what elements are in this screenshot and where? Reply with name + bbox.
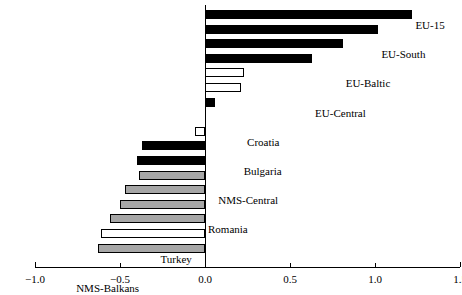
bar-row: Moldova	[0, 244, 462, 253]
bar-eu-central	[205, 54, 312, 63]
bar-row: Albania	[0, 185, 462, 194]
bar-row: Bosnia-Herzegovina	[0, 214, 462, 223]
x-axis-cap-right	[460, 262, 461, 267]
bar-ukraine	[101, 229, 205, 238]
bar-row: Macedonia	[0, 171, 462, 180]
bar-row: Bulgaria	[0, 83, 462, 92]
bar-serbia-montenegro	[120, 200, 205, 209]
bar-croatia	[205, 68, 244, 77]
x-tick-label-1: −0.5	[95, 273, 145, 285]
bar-row: NMS-Balkans	[0, 141, 462, 150]
bar-row: EU-Baltic	[0, 39, 462, 48]
bar-nms-central	[205, 98, 215, 107]
horizontal-bar-chart: EU-15EU-SouthEU-BalticEU-CentralCroatiaB…	[0, 0, 462, 295]
bar-nms-black-sea	[137, 156, 205, 165]
bar-row: Ukraine	[0, 229, 462, 238]
x-tick-label-5: 1.5	[435, 273, 462, 285]
bar-turkey	[195, 127, 205, 136]
bar-row: EU-15	[0, 10, 462, 19]
x-tick-2	[205, 263, 206, 267]
bar-row: Serbia-Montenegro	[0, 200, 462, 209]
bar-row: NMS-Central	[0, 98, 462, 107]
bar-label-turkey: Turkey	[160, 253, 191, 265]
x-tick-label-0: −1.0	[10, 273, 60, 285]
bar-row: EU-South	[0, 25, 462, 34]
bar-eu-baltic	[205, 39, 343, 48]
bar-row: Romania	[0, 112, 462, 121]
x-tick-1	[120, 263, 121, 267]
x-tick-3	[290, 263, 291, 267]
x-tick-label-2: 0.0	[180, 273, 230, 285]
zero-axis-line	[205, 5, 206, 267]
plot-area: EU-15EU-SouthEU-BalticEU-CentralCroatiaB…	[0, 0, 462, 295]
x-axis-cap-left	[35, 262, 36, 267]
bar-bulgaria	[205, 83, 241, 92]
bar-row: Croatia	[0, 68, 462, 77]
bar-row: EU-Central	[0, 54, 462, 63]
bar-albania	[125, 185, 205, 194]
x-tick-label-3: 0.5	[265, 273, 315, 285]
bar-row: NMS-Black Sea	[0, 156, 462, 165]
x-tick-label-4: 1.0	[350, 273, 400, 285]
bar-eu-south	[205, 25, 378, 34]
x-axis-line	[35, 267, 460, 268]
bar-eu-15	[205, 10, 412, 19]
bar-bosnia-herzegovina	[110, 214, 205, 223]
bar-moldova	[98, 244, 205, 253]
x-tick-4	[375, 263, 376, 267]
bar-nms-balkans	[142, 141, 205, 150]
bar-macedonia	[139, 171, 205, 180]
bar-row: Turkey	[0, 127, 462, 136]
